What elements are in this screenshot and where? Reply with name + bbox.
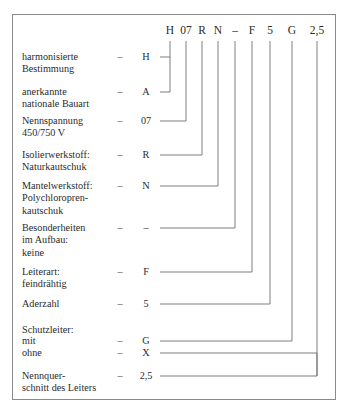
code-header-r: R [198,22,206,38]
code-header-g: G [288,22,296,38]
code-header-h: H [166,22,174,38]
row-dash-nennspannung: – [114,115,126,127]
code-header-n: N [214,22,222,38]
row-code-leiterart: F [130,266,162,278]
row-code-nennquerschnitt: 2,5 [130,370,162,382]
row-label-harmonisiert: harmonisierte Bestimmung [22,51,126,76]
code-header-07: 07 [180,22,192,38]
code-header-dash: – [232,22,238,38]
cable-designation-diagram: H 07 R N – F 5 G 2,5 [0,0,350,414]
row-dash-harmonisiert: – [114,51,126,63]
row-label-mantelwerkstoff: Mantelwerkstoff: Polychloropren- kautsch… [22,180,126,217]
row-label-leiterart: Leiterart: feindrähtig [22,266,126,291]
code-header-f: F [249,22,255,38]
row-dash-schutzleiter-ohne: – [114,347,126,359]
row-code-harmonisiert: H [130,51,162,63]
row-dash-mantelwerkstoff: – [114,180,126,192]
row-code-aderzahl: 5 [130,298,162,310]
row-dash-leiterart: – [114,266,126,278]
row-label-nennquerschnitt: Nennquer- schnitt des Leiters [22,370,126,395]
row-label-schutzleiter-ohne: ohne [22,347,126,359]
row-label-isolierwerkstoff: Isolierwerkstoff: Naturkautschuk [22,149,126,174]
row-code-isolierwerkstoff: R [130,149,162,161]
row-label-aderzahl: Aderzahl [22,298,126,310]
row-label-nennspannung: Nennspannung 450/750 V [22,115,126,140]
row-code-schutzleiter-mit: G [130,335,162,347]
code-header-row: H 07 R N – F 5 G 2,5 [0,22,350,40]
row-label-besonderheiten: Besonderheiten im Aufbau: keine [22,222,126,259]
row-code-mantelwerkstoff: N [130,180,162,192]
code-header-5: 5 [267,22,273,38]
row-dash-schutzleiter-mit: – [114,335,126,347]
row-code-besonderheiten: – [130,222,162,234]
row-code-national: A [130,86,162,98]
row-dash-national: – [114,86,126,98]
row-label-schutzleiter-mit: mit [22,335,126,347]
row-dash-aderzahl: – [114,298,126,310]
row-label-national: anerkannte nationale Bauart [22,86,126,111]
row-code-schutzleiter-ohne: X [130,347,162,359]
code-header-25: 2,5 [310,22,324,38]
row-dash-isolierwerkstoff: – [114,149,126,161]
row-dash-nennquerschnitt: – [114,370,126,382]
row-dash-besonderheiten: – [114,222,126,234]
row-code-nennspannung: 07 [130,115,162,127]
